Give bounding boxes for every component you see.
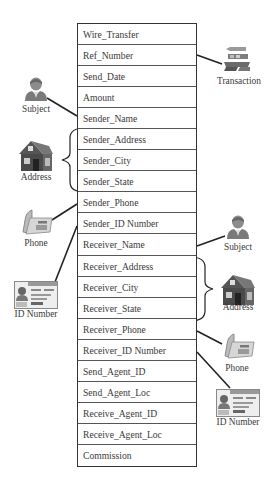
transaction-icon — [220, 44, 254, 78]
field-receiver-id-number: Receiver_ID Number — [78, 340, 196, 361]
diagram-canvas: Wire_Transfer Ref_Number Send_Date Amoun… — [0, 0, 277, 485]
field-sender-address: Sender_Address — [78, 129, 196, 150]
field-sender-city: Sender_City — [78, 150, 196, 171]
field-commission: Commission — [78, 445, 196, 466]
connector-receiver-phone — [197, 331, 222, 344]
connector-sender-phone — [52, 204, 77, 220]
receiver-phone-icon — [222, 332, 256, 364]
field-wire-transfer: Wire_Transfer — [78, 24, 196, 45]
field-receiver-city: Receiver_City — [78, 277, 196, 298]
connector-transaction — [197, 55, 222, 64]
field-sender-state: Sender_State — [78, 171, 196, 192]
field-receive-agent-id: Receive_Agent_ID — [78, 403, 196, 424]
field-sender-phone: Sender_Phone — [78, 192, 196, 213]
sender-phone-label: Phone — [14, 238, 58, 248]
receiver-person-icon — [225, 214, 251, 244]
sender-address-label: Address — [12, 172, 60, 182]
receiver-id-label: ID Number — [206, 417, 270, 427]
receiver-subject-label: Subject — [216, 242, 260, 252]
transaction-label: Transaction — [211, 76, 267, 86]
sender-phone-icon — [20, 208, 54, 240]
field-receiver-state: Receiver_State — [78, 298, 196, 319]
field-sender-name: Sender_Name — [78, 108, 196, 129]
sender-subject-label: Subject — [14, 104, 58, 114]
sender-person-icon — [23, 76, 49, 106]
connector-sender-id — [55, 226, 77, 282]
field-amount: Amount — [78, 87, 196, 108]
receiver-phone-label: Phone — [215, 363, 259, 373]
field-receive-agent-loc: Receive_Agent_Loc — [78, 424, 196, 445]
receiver-address-label: Address — [214, 302, 262, 312]
field-sender-id-number: Sender_ID Number — [78, 213, 196, 234]
wire-transfer-record-table: Wire_Transfer Ref_Number Send_Date Amoun… — [77, 23, 197, 467]
sender-house-icon — [17, 138, 55, 176]
field-receiver-address: Receiver_Address — [78, 256, 196, 277]
field-receiver-phone: Receiver_Phone — [78, 319, 196, 340]
sender-id-label: ID Number — [4, 309, 68, 319]
field-receiver-name: Receiver_Name — [78, 234, 196, 255]
field-send-agent-loc: Send_Agent_Loc — [78, 382, 196, 403]
field-send-date: Send_Date — [78, 66, 196, 87]
field-ref-number: Ref_Number — [78, 45, 196, 66]
field-send-agent-id: Send_Agent_ID — [78, 361, 196, 382]
